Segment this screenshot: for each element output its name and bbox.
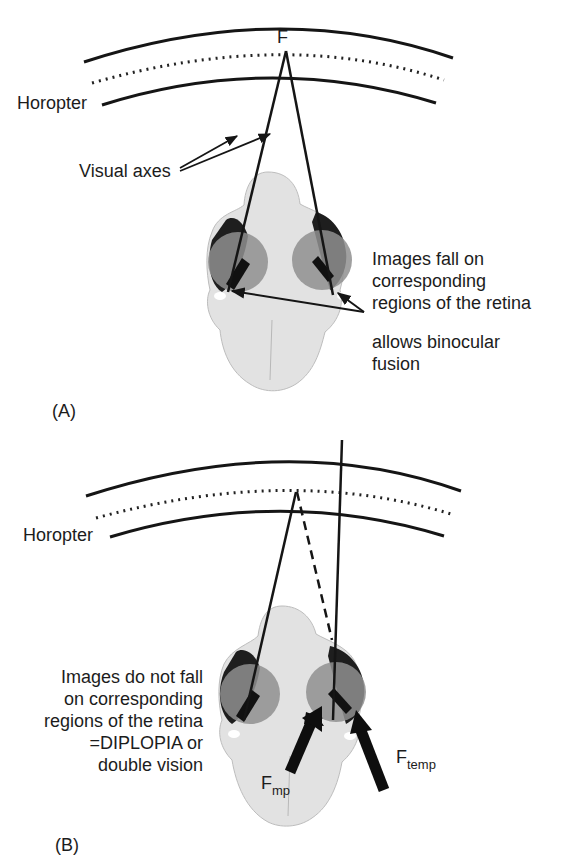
skull-b — [219, 606, 366, 826]
ftemp-thick-arrow — [350, 710, 384, 790]
note-line: Images fall on — [372, 248, 531, 270]
ftemp-label: Ftemp — [396, 746, 436, 776]
outer-arc-a — [84, 29, 453, 62]
fixation-point-label-a: F — [277, 26, 288, 48]
fmp-label: Fmp — [261, 772, 290, 802]
note-line: fusion — [372, 353, 500, 375]
ftemp-subscript: temp — [407, 757, 436, 772]
retina-correspondence-note: Images fall on corresponding regions of … — [372, 248, 531, 314]
note-line: allows binocular — [372, 331, 500, 353]
note-line: =DIPLOPIA or — [15, 732, 203, 754]
binocular-fusion-note: allows binocular fusion — [372, 331, 500, 375]
horopter-label-b: Horopter — [23, 524, 93, 546]
fmp-main: F — [261, 773, 272, 793]
diplopia-note: Images do not fall on corresponding regi… — [15, 666, 203, 776]
visual-axes-label: Visual axes — [79, 160, 171, 182]
panel-a-label: (A) — [52, 400, 76, 422]
visual-axes-pointer-2 — [180, 134, 270, 171]
panel-b-label: (B) — [55, 834, 79, 856]
note-line: Images do not fall — [15, 666, 203, 688]
horopter-label-a: Horopter — [17, 92, 87, 114]
ftemp-main: F — [396, 747, 407, 767]
horopter-dotted-arc-b — [96, 490, 451, 518]
note-line: double vision — [15, 754, 203, 776]
note-line: regions of the retina — [372, 292, 531, 314]
note-line: corresponding — [372, 270, 531, 292]
outer-arc-b — [86, 462, 461, 496]
note-line: on corresponding — [15, 688, 203, 710]
fmp-subscript: mp — [272, 783, 290, 798]
note-line: regions of the retina — [15, 710, 203, 732]
inner-arc-b — [110, 511, 444, 537]
inner-arc-a — [102, 78, 436, 105]
